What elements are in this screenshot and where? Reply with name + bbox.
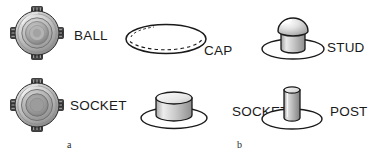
stud-label: STUD — [327, 41, 365, 55]
ring-snap-ball-icon — [10, 6, 64, 60]
stud-icon-wrap — [258, 16, 328, 62]
post-label: POST — [330, 105, 368, 119]
post-icon-wrap — [258, 84, 326, 132]
socket-a-label: SOCKET — [70, 99, 127, 113]
cylinder-post-on-base-icon — [258, 84, 326, 132]
panel-b: CAP — [189, 0, 378, 161]
cap-icon-wrap — [124, 22, 210, 58]
socket-b-icon-wrap — [136, 87, 212, 131]
panel-a-caption: a — [67, 140, 71, 150]
ball-label: BALL — [74, 29, 108, 43]
ball-icon-wrap — [10, 6, 64, 60]
panel-b-caption: b — [237, 140, 242, 150]
ellipse-cap-outline-icon — [124, 22, 210, 58]
figure-root: BALL — [0, 0, 378, 161]
socket-a-icon-wrap — [10, 78, 64, 132]
dome-stud-on-base-icon — [258, 16, 328, 62]
cylinder-socket-on-base-icon — [136, 87, 212, 131]
cap-label: CAP — [204, 44, 232, 58]
ring-snap-socket-icon — [10, 78, 64, 132]
